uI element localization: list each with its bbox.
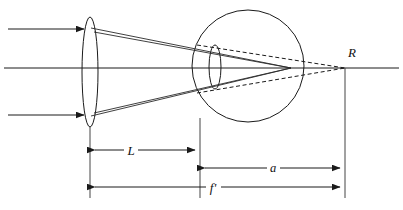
dimension-L: L (95, 143, 195, 158)
dimension-L-label: L (126, 143, 134, 158)
objective-lens (82, 17, 98, 127)
dimension-f-prime-label: f' (210, 180, 217, 195)
optical-diagram-canvas: R L a f' (0, 0, 403, 210)
ray-upper-converging-a (91, 28, 291, 68)
dimension-a-label: a (270, 161, 276, 175)
dimension-f-prime: f' (95, 180, 340, 195)
optical-diagram-figure: R L a f' (0, 0, 403, 210)
dimension-a: a (205, 161, 340, 175)
dashed-ray-lower (197, 68, 345, 93)
label-point-r: R (347, 45, 356, 60)
